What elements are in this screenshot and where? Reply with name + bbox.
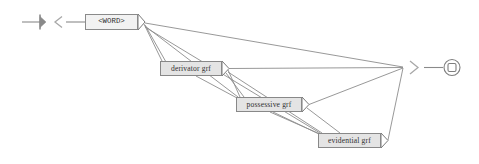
evidential-node-exit-chevron-icon [381,133,388,148]
node-derivator-grf[interactable]: derivator grf [160,61,222,76]
word-node-exit-chevron-icon [138,14,145,30]
transition-network-diagram: <WORD> derivator grf possessive grf evid… [0,0,479,164]
node-evidential-grf[interactable]: evidential grf [318,133,381,148]
end-marker-icon [444,60,460,76]
node-word-label: <WORD> [96,18,127,25]
possessive-node-exit-chevron-icon [302,97,309,112]
entry-chevron-icon [55,17,62,28]
edges-from-word [144,23,403,133]
exit-chevron-icon [410,61,418,74]
derivator-node-exit-chevron-icon [222,61,229,76]
start-marker [22,15,46,30]
edges-from-evidential [388,68,403,140]
node-possessive-grf[interactable]: possessive grf [236,97,302,112]
node-derivator-grf-label: derivator grf [169,65,213,73]
node-possessive-grf-label: possessive grf [245,101,294,109]
node-evidential-grf-label: evidential grf [326,137,373,145]
graph-canvas [0,0,479,164]
node-word[interactable]: <WORD> [85,14,138,30]
